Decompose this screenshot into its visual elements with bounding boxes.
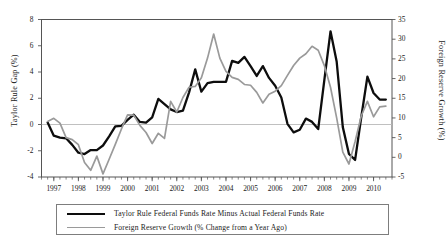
- y-axis-tick-label-right: 15: [398, 93, 416, 102]
- y-axis-tick-label-right: -5: [398, 172, 416, 181]
- y-axis-tick-label-right: 20: [398, 74, 416, 83]
- y-axis-tick-label-right: 10: [398, 113, 416, 122]
- y-axis-tick-label-left: 6: [16, 41, 34, 50]
- legend-label-taylor-rule-gap: Taylor Rule Federal Funds Rate Minus Act…: [114, 209, 324, 218]
- y-axis-tick-label-left: 8: [16, 15, 34, 24]
- chart-legend: Taylor Rule Federal Funds Rate Minus Act…: [56, 204, 389, 235]
- y-axis-tick-label-left: 0: [16, 120, 34, 129]
- y-axis-tick-label-left: 2: [16, 93, 34, 102]
- series-line-taylor-rule-gap: [48, 31, 386, 160]
- legend-entry-taylor-rule-gap: Taylor Rule Federal Funds Rate Minus Act…: [57, 206, 324, 221]
- legend-swatch-black-line-icon: [67, 213, 105, 215]
- y-axis-tick-label-right: 30: [398, 34, 416, 43]
- x-axis-tick-label: 2010: [360, 184, 388, 193]
- y-axis-tick-label-left: 4: [16, 67, 34, 76]
- legend-swatch-gray-line-icon: [67, 227, 105, 228]
- legend-label-foreign-reserve-growth: Foreign Reserve Growth (% Change from a …: [114, 223, 287, 232]
- legend-entry-foreign-reserve-growth: Foreign Reserve Growth (% Change from a …: [57, 220, 287, 235]
- y-axis-tick-label-right: 35: [398, 15, 416, 24]
- y-axis-tick-label-right: 0: [398, 152, 416, 161]
- y-axis-tick-label-right: 25: [398, 54, 416, 63]
- y-axis-tick-label-left: -4: [16, 172, 34, 181]
- chart-figure: Taylor Rule Gap (%) Foreign Reserve Grow…: [0, 0, 446, 249]
- y-axis-tick-label-left: -2: [16, 146, 34, 155]
- y-axis-tick-label-right: 5: [398, 133, 416, 142]
- right-axis-title: Foreign Reserve Growth (%): [437, 21, 446, 161]
